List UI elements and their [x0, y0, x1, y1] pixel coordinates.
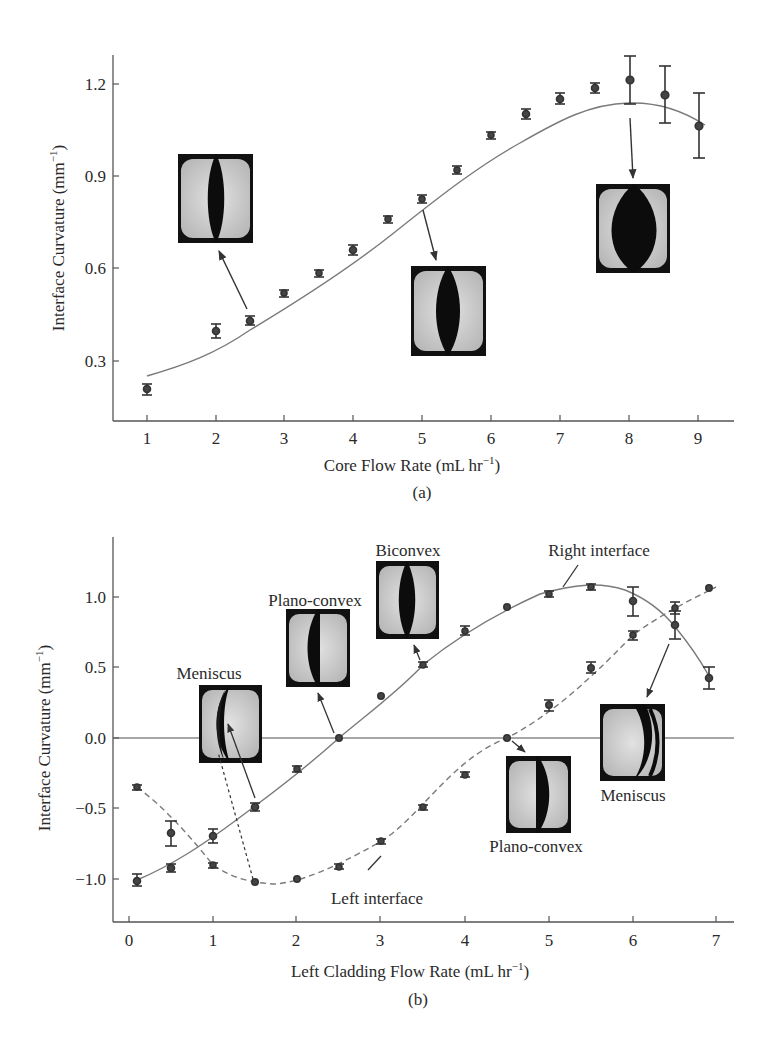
y-tick-label: 0.9 — [85, 167, 106, 186]
x-tick-label: 0 — [125, 931, 134, 950]
x-axis-title-b: Left Cladding Flow Rate (mL hr−1) — [291, 960, 529, 981]
data-point — [294, 876, 300, 882]
data-point — [486, 132, 496, 139]
y-tick-label: −0.5 — [75, 799, 106, 818]
inset-image-a2 — [411, 266, 486, 356]
data-point — [555, 93, 565, 104]
data-point — [624, 56, 636, 104]
label-left-interface: Left interface — [331, 889, 423, 908]
arrow-a3 — [630, 118, 633, 178]
data-point — [383, 216, 393, 223]
x-tick-label: 8 — [625, 429, 634, 448]
data-point — [279, 290, 289, 297]
data-point — [378, 693, 384, 699]
data-point — [165, 821, 177, 846]
x-ticks-b — [129, 916, 716, 922]
inset-meniscus-right — [600, 704, 665, 781]
data-point — [544, 700, 554, 711]
x-axis-title-a: Core Flow Rate (mL hr−1) — [324, 454, 500, 475]
y-tick-label: 1.2 — [85, 75, 106, 94]
arrow-biconvex — [414, 645, 420, 660]
dotted-pointer-left-meniscus — [218, 752, 253, 879]
data-point — [504, 735, 510, 741]
panel-b: 1.0 0.5 0.0 −0.5 −1.0 0 1 2 3 4 5 6 7 Le… — [33, 537, 734, 1009]
data-point — [670, 602, 680, 614]
arrow-plano-convex-bottom — [512, 741, 525, 752]
label-biconvex: Biconvex — [375, 541, 441, 560]
data-point — [211, 324, 221, 338]
data-point — [521, 109, 531, 119]
y-tick-label: 1.0 — [85, 588, 106, 607]
x-tick-label: 2 — [292, 931, 301, 950]
arrow-meniscus-right — [647, 644, 669, 697]
data-point — [460, 772, 470, 778]
y-tick-label: 0.6 — [85, 259, 106, 278]
y-tick-label: 0.0 — [85, 729, 106, 748]
x-tick-label: 2 — [212, 429, 221, 448]
data-point — [452, 166, 462, 174]
x-tick-label: 6 — [487, 429, 496, 448]
data-point — [348, 245, 358, 255]
data-point — [376, 838, 386, 844]
panel-caption-b: (b) — [408, 990, 428, 1009]
x-tick-label: 5 — [545, 931, 554, 950]
y-tick-label: 0.5 — [85, 658, 106, 677]
data-point — [590, 83, 600, 93]
leader-right-interface — [563, 565, 578, 587]
data-point — [418, 804, 428, 810]
y-axis-title-b: Interface Curvature (mm−1) — [33, 645, 54, 831]
data-point — [245, 316, 255, 325]
x-tick-label: 5 — [418, 429, 427, 448]
y-ticks-a — [113, 84, 119, 361]
inset-image-a1 — [178, 154, 253, 243]
y-axis-title-a: Interface Curvature (mm−1) — [47, 145, 68, 331]
x-tick-label: 7 — [556, 429, 565, 448]
inset-image-a3 — [596, 184, 670, 273]
x-tick-label: 9 — [694, 429, 703, 448]
data-point — [460, 626, 470, 635]
data-point — [418, 662, 428, 668]
x-tick-label: 6 — [629, 931, 638, 950]
panel-a: 1.2 0.9 0.6 0.3 1 2 3 4 5 6 7 8 9 Core F… — [47, 55, 734, 502]
inset-meniscus-left — [199, 685, 262, 763]
data-point — [669, 611, 681, 639]
inset-biconvex — [376, 561, 439, 639]
arrow-a2 — [423, 210, 436, 260]
data-point — [706, 585, 712, 591]
data-point — [417, 195, 427, 203]
data-point — [334, 864, 344, 870]
inset-plano-convex-bottom — [506, 756, 571, 833]
label-plano-convex-bottom: Plano-convex — [489, 837, 583, 856]
data-point — [208, 829, 218, 843]
data-point — [659, 66, 671, 123]
data-point — [132, 874, 142, 886]
x-ticks-a — [147, 415, 698, 421]
label-meniscus-right: Meniscus — [600, 786, 665, 805]
label-right-interface: Right interface — [548, 541, 650, 560]
data-point — [142, 384, 152, 395]
x-tick-label: 4 — [349, 429, 358, 448]
y-tick-label: −1.0 — [75, 870, 106, 889]
x-tick-label: 3 — [376, 931, 385, 950]
x-tick-label: 4 — [461, 931, 470, 950]
data-point — [314, 270, 324, 277]
y-ticks-b — [113, 597, 119, 879]
label-meniscus-left: Meniscus — [176, 664, 241, 683]
x-tick-label: 1 — [143, 429, 152, 448]
data-point — [693, 93, 705, 158]
inset-plano-convex-top — [286, 609, 350, 687]
figure-canvas: 1.2 0.9 0.6 0.3 1 2 3 4 5 6 7 8 9 Core F… — [0, 0, 773, 1048]
y-tick-label: 0.3 — [85, 352, 106, 371]
leader-left-interface — [368, 856, 381, 870]
data-point — [703, 667, 715, 689]
data-point — [252, 879, 258, 885]
x-tick-label: 7 — [712, 931, 721, 950]
data-point — [586, 662, 596, 673]
x-tick-label: 1 — [209, 931, 218, 950]
panel-caption-a: (a) — [413, 483, 432, 502]
x-tick-label: 3 — [280, 429, 289, 448]
label-plano-convex-top: Plano-convex — [268, 591, 362, 610]
data-point — [504, 604, 510, 610]
data-point — [336, 735, 342, 741]
arrow-a1 — [219, 251, 247, 309]
